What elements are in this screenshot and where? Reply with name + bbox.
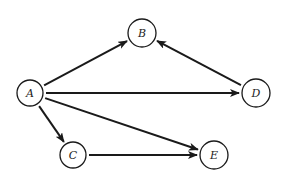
edge-d-to-b: [157, 41, 241, 85]
node-label: E: [209, 149, 218, 162]
node-d: D: [242, 79, 270, 107]
node-label: B: [137, 27, 146, 40]
node-label: C: [69, 149, 78, 162]
node-label: A: [25, 87, 34, 100]
node-label: D: [251, 87, 261, 100]
node-e: E: [200, 141, 228, 169]
node-b: B: [128, 19, 156, 47]
node-a: A: [17, 80, 43, 106]
node-c: C: [60, 142, 86, 168]
graph-diagram: ABCDE: [0, 0, 284, 185]
edge-a-to-b: [44, 41, 127, 85]
edge-a-to-c: [39, 106, 64, 142]
edges-layer: [39, 41, 241, 155]
graph-canvas: ABCDE: [0, 0, 284, 185]
edge-a-to-e: [45, 98, 198, 149]
